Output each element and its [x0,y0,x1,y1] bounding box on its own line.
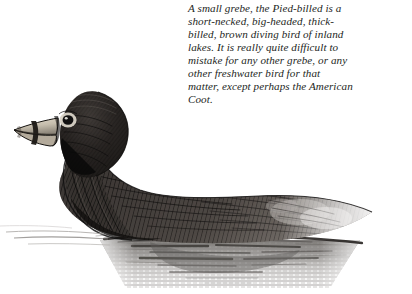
caption-line: billed, brown diving bird of inland [188,28,404,41]
caption-line: lakes. It is really quite difficult to [188,41,404,54]
caption-line: mistake for any other grebe, or any [188,54,404,67]
caption-line: other freshwater bird for that [188,67,404,80]
caption-line: short-necked, big-headed, thick- [188,15,404,28]
caption-line: Coot. [188,93,404,106]
eye-pupil [63,115,74,125]
figure-page: A small grebe, the Pied-billed is a shor… [0,0,412,294]
caption-line: A small grebe, the Pied-billed is a [188,2,404,15]
water-reflection [90,238,370,290]
caption-text-block: A small grebe, the Pied-billed is a shor… [188,2,404,106]
eye-glint [65,117,68,120]
caption-line: matter, except perhaps the American [188,80,404,93]
